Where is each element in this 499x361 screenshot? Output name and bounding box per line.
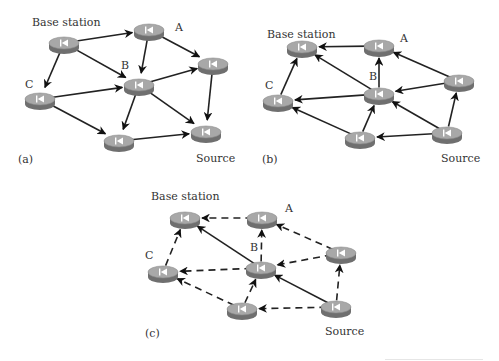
edge-R-to-A <box>393 52 450 77</box>
node-base <box>170 212 200 229</box>
node-R <box>326 247 356 264</box>
edge-src-to-B <box>392 102 439 129</box>
node-base <box>287 41 317 58</box>
panel-b-label-b: B <box>369 71 377 82</box>
node-A <box>134 24 164 41</box>
panel-b-caption: (b) <box>262 154 278 165</box>
edge-src-to-D <box>259 307 326 308</box>
edge-D-to-B <box>245 279 256 302</box>
edge-B-to-D <box>123 91 137 129</box>
edge-R-to-A <box>276 224 333 249</box>
edge-base-to-B <box>71 47 125 77</box>
panel-c-caption: (c) <box>145 328 160 339</box>
edge-B-to-base <box>315 55 372 90</box>
edge-src-to-D <box>377 134 437 137</box>
node-R <box>198 58 228 75</box>
panel-b-label-base-station: Base station <box>267 29 336 40</box>
node-src <box>321 301 351 318</box>
edge-R-to-src <box>207 71 212 120</box>
edge-D-to-C <box>292 107 352 134</box>
edge-R-to-B <box>396 83 450 92</box>
panel-c-label-source: Source <box>325 326 364 337</box>
edge-C-to-base <box>281 58 297 94</box>
node-src <box>432 127 462 144</box>
nodes-layer <box>25 24 474 320</box>
node-C <box>25 93 55 110</box>
edge-src-to-R <box>337 265 340 300</box>
node-B <box>364 88 394 105</box>
edge-src-to-R <box>449 93 457 127</box>
node-D <box>104 135 134 152</box>
panel-c-label-a: A <box>285 203 293 214</box>
panel-a-label-a: A <box>175 22 183 33</box>
edge-B-to-base <box>197 226 254 263</box>
node-C <box>148 266 178 283</box>
panel-c-label-base-station: Base station <box>151 191 220 202</box>
panel-b-label-c: C <box>265 80 273 91</box>
edge-base-to-A <box>73 33 132 42</box>
node-src <box>191 126 221 143</box>
edge-B-to-src <box>146 90 194 124</box>
edge-A-to-R <box>157 34 200 57</box>
edge-C-to-B <box>49 87 122 97</box>
panel-c-label-c: C <box>145 250 153 261</box>
panel-a-label-b: B <box>121 60 129 71</box>
panel-b-nodes <box>263 40 474 149</box>
panel-a-caption: (a) <box>18 154 33 165</box>
edge-B-to-C <box>180 268 251 271</box>
divider-line <box>385 359 483 360</box>
edge-A-to-B <box>141 37 148 74</box>
node-A <box>364 40 394 57</box>
node-B <box>246 262 276 279</box>
edge-D-to-C <box>177 279 234 306</box>
node-A <box>247 212 277 229</box>
node-C <box>263 95 293 112</box>
node-D <box>227 303 257 320</box>
edge-A-to-base <box>319 46 369 47</box>
node-B <box>124 79 154 96</box>
edge-src-to-B <box>275 275 329 303</box>
node-base <box>49 37 79 54</box>
panel-c-label-b: B <box>250 242 258 253</box>
edge-B-to-A <box>261 230 262 261</box>
panel-b-label-source: Source <box>441 153 480 164</box>
panel-b-label-a: A <box>400 33 408 44</box>
edge-base-to-C <box>45 49 61 87</box>
panel-a-nodes <box>25 24 228 152</box>
panel-a-label-c: C <box>25 79 33 90</box>
edge-B-to-R <box>148 68 197 82</box>
panel-a-label-source: Source <box>196 153 235 164</box>
node-R <box>444 75 474 92</box>
edge-C-to-base <box>166 230 181 266</box>
panel-c-nodes <box>148 212 356 320</box>
node-D <box>345 132 375 149</box>
network-diagram <box>0 0 499 361</box>
edge-D-to-src <box>128 134 189 140</box>
edge-B-to-C <box>295 95 370 100</box>
edge-C-to-D <box>48 103 106 134</box>
edge-R-to-B <box>277 255 331 265</box>
panel-a-label-base-station: Base station <box>32 17 101 28</box>
edge-D-to-B <box>363 105 374 131</box>
